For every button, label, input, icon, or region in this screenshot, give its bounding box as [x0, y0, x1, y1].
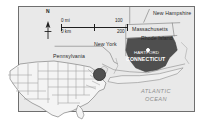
north-arrow-label: N [46, 9, 50, 14]
label-hartford: HARTFORD [134, 51, 159, 55]
eastern-coast-detail [181, 42, 189, 64]
scale-tick-mid [94, 24, 95, 31]
label-rhode-island: Rhode Island [141, 36, 173, 41]
label-connecticut: CONNECTICUT [126, 57, 165, 62]
scale-km-max-label: 200 [117, 30, 125, 35]
north-arrow-icon [43, 17, 53, 41]
label-new-hampshire-line1: New Hampshire [153, 11, 191, 16]
label-atlantic-ocean-line2: OCEAN [145, 97, 167, 103]
us-inset-map [2, 55, 114, 123]
scale-km-zero-label: 0 km [61, 30, 71, 35]
connecticut-location-marker [93, 68, 106, 81]
florida-shape [76, 105, 84, 119]
scale-miles-zero-label: 0 mi [61, 19, 70, 24]
scale-tick-end [127, 24, 128, 31]
us-inset-geometry [2, 55, 114, 123]
scale-bar: 0 mi 100 0 km 200 [61, 20, 133, 36]
newhampshire-vermont-border [144, 9, 150, 23]
label-atlantic-ocean-line1: ATLANTIC [141, 89, 171, 95]
map-figure: N 0 mi 100 0 km 200 Pennsylvania New Yor… [0, 0, 201, 126]
label-massachusetts: Massachusetts [132, 27, 168, 32]
hudson-river-line [114, 58, 118, 74]
scale-miles-max-label: 100 [115, 19, 123, 24]
label-new-york: New York [94, 42, 117, 47]
